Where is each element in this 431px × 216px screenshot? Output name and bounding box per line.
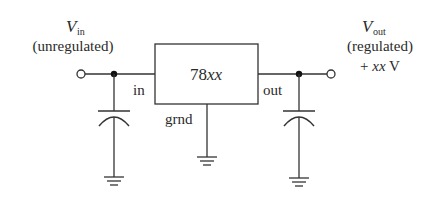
regulator-ground-icon — [197, 157, 217, 165]
pin-ground-label: grnd — [165, 111, 193, 127]
pin-out-label: out — [263, 82, 283, 98]
vout-description: (regulated) — [347, 38, 413, 55]
vin-subscript: in — [77, 26, 85, 37]
input-capacitor-ground-icon — [104, 177, 124, 185]
vout-voltage-value: xx — [371, 58, 386, 74]
input-voltage-label: V in (unregulated) — [33, 17, 114, 55]
regulator-label: 78xx — [190, 65, 223, 84]
vout-voltage-unit: V — [386, 58, 400, 74]
pin-in-label: in — [133, 82, 145, 98]
output-terminal-icon — [327, 70, 335, 78]
vout-voltage-prefix: + — [360, 58, 372, 74]
regulator-label-prefix: 78 — [190, 65, 207, 84]
output-capacitor-icon — [283, 74, 315, 178]
input-terminal-icon — [77, 70, 85, 78]
input-capacitor-icon — [98, 74, 130, 177]
output-capacitor-ground-icon — [289, 178, 309, 186]
regulator-label-suffix: xx — [206, 65, 223, 84]
vout-subscript: out — [373, 26, 386, 37]
regulator-schematic: V in (unregulated) V out (regulated) + x… — [0, 0, 431, 216]
vout-voltage: + xx V — [360, 58, 400, 74]
vin-description: (unregulated) — [33, 38, 114, 55]
output-voltage-label: V out (regulated) + xx V — [347, 17, 413, 74]
